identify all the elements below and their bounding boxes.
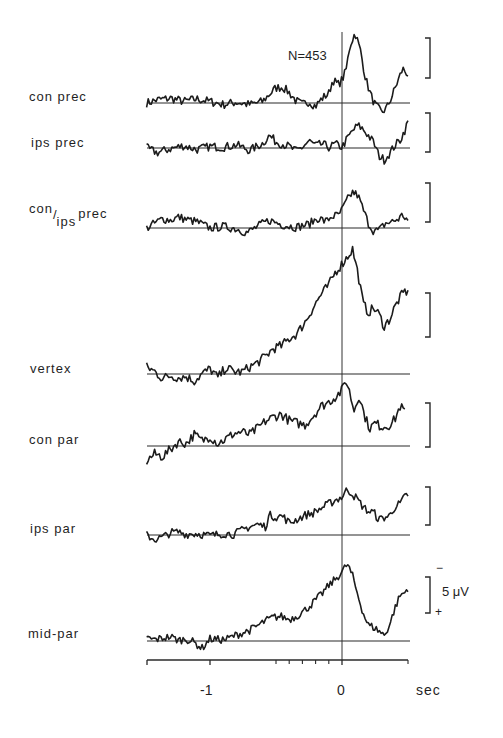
trace-mid-par <box>147 565 408 650</box>
x-tick-label-minus1: -1 <box>200 682 212 698</box>
scale-bar-plus-sign: + <box>435 605 442 619</box>
series-label-prec: prec <box>78 206 107 221</box>
scale-bar-value-label: 5 μV <box>442 584 469 599</box>
series-label-con: con <box>29 201 53 216</box>
scale-bar-minus-sign: − <box>436 561 443 575</box>
series-label-con-prec: con prec <box>29 89 87 104</box>
scale-bar-bracket <box>425 183 430 222</box>
x-axis-unit-label: sec <box>416 682 441 698</box>
scale-bar-bracket <box>425 487 430 525</box>
trace-ips-prec <box>147 121 408 164</box>
series-label-vertex: vertex <box>30 361 71 376</box>
scale-bar-bracket <box>425 113 430 152</box>
scale-bar-bracket <box>425 577 430 613</box>
annotation-n: N=453 <box>288 48 327 63</box>
series-label-ips: ips <box>57 214 77 229</box>
scale-bar-bracket <box>425 38 430 78</box>
trace-con-prec <box>147 35 408 113</box>
x-tick-label-0: 0 <box>337 682 345 698</box>
trace-vertex <box>147 247 408 385</box>
trace-con-par <box>147 383 405 464</box>
scale-bar-bracket <box>425 403 430 447</box>
trace-con-ips-prec <box>147 190 408 235</box>
series-label-ips-par: ips par <box>30 521 76 536</box>
series-label-ips-prec: ips prec <box>31 135 85 150</box>
series-label-con-ips-prec: con/ipsprec <box>29 207 108 222</box>
trace-ips-par <box>147 488 408 542</box>
series-label-con-par: con par <box>29 432 79 447</box>
erp-figure: con prec ips prec con/ipsprec vertex con… <box>0 0 503 738</box>
series-label-mid-par: mid-par <box>28 626 79 641</box>
scale-bar-bracket <box>425 293 430 337</box>
